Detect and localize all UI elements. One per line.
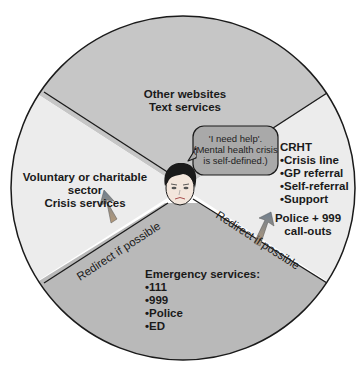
- sector-text: sector: [20, 184, 150, 197]
- emergency-item: 111: [145, 281, 285, 294]
- voluntary-text: Voluntary or charitable: [20, 171, 150, 184]
- bottom-segment-label: Emergency services: 111 999 Police ED: [145, 268, 285, 333]
- callouts-text: call-outs: [268, 225, 348, 238]
- left-segment-label: Voluntary or charitable sector Crisis se…: [20, 171, 150, 210]
- crht-item: Support: [280, 193, 364, 206]
- text-services-text: Text services: [130, 101, 240, 114]
- emergency-item: Police: [145, 307, 285, 320]
- emergency-item: 999: [145, 294, 285, 307]
- emergency-services-title: Emergency services:: [145, 268, 285, 281]
- distressed-face-icon: [164, 163, 196, 205]
- top-segment-label: Other websites Text services: [130, 88, 240, 114]
- emergency-list: 111 999 Police ED: [145, 281, 285, 333]
- bubble-line-2: (Mental health crisis: [193, 144, 278, 155]
- bubble-line-1: 'I need help'.: [193, 133, 278, 144]
- emergency-item: ED: [145, 320, 285, 333]
- crht-item: Crisis line: [280, 154, 364, 167]
- crht-title: CRHT: [280, 141, 364, 154]
- crisis-services-text: Crisis services: [20, 197, 150, 210]
- crht-list: Crisis line GP referral Self-referral Su…: [280, 154, 364, 206]
- right-segment-label: CRHT Crisis line GP referral Self-referr…: [280, 141, 364, 206]
- crht-item: GP referral: [280, 167, 364, 180]
- police-999-text: Police + 999: [268, 212, 348, 225]
- crht-item: Self-referral: [280, 180, 364, 193]
- bubble-line-3: is self-defined.): [193, 155, 278, 166]
- other-websites-text: Other websites: [130, 88, 240, 101]
- police-callouts-label: Police + 999 call-outs: [268, 212, 348, 238]
- speech-bubble-text: 'I need help'. (Mental health crisis is …: [193, 133, 278, 166]
